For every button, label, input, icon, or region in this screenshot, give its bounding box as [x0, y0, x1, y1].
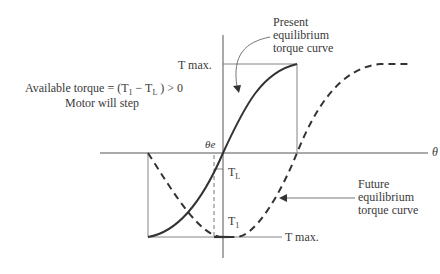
t-l-label: TL	[228, 165, 240, 184]
t-max-top-label: T max.	[178, 58, 212, 72]
theta-axis-label: θ	[432, 145, 438, 159]
arrowhead-icon	[233, 85, 241, 93]
t-max-bottom-label: T max.	[285, 230, 319, 244]
future-curve-label: Future equilibrium torque curve	[358, 178, 418, 217]
t-1-label: T1	[228, 214, 239, 233]
torque-diagram	[0, 0, 440, 274]
present-curve-pointer-arrow	[236, 37, 270, 87]
arrowhead-icon	[279, 194, 287, 202]
motor-will-step-label: Motor will step	[65, 96, 139, 110]
theta-e-label: θe	[205, 137, 215, 151]
present-curve-label: Present equilibrium torque curve	[273, 16, 333, 55]
